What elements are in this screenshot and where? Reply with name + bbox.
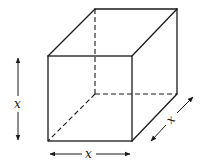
depth-arrow-lower (151, 125, 166, 141)
height-label: x (14, 97, 21, 111)
width-label: x (85, 147, 92, 161)
width-dimension: x (50, 147, 130, 161)
edge-top-left-diagonal (48, 9, 95, 56)
hidden-edge-bottom-left-diagonal (48, 94, 95, 141)
depth-label: x (163, 112, 178, 127)
cube-diagram: x x x (0, 0, 206, 167)
depth-arrow-upper (177, 97, 193, 113)
height-dimension: x (14, 58, 21, 140)
edge-top-right-diagonal (132, 9, 177, 56)
depth-dimension: x (151, 97, 193, 141)
